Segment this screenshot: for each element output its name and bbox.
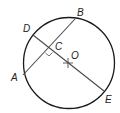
label-E: E [105, 95, 112, 105]
label-B: B [77, 8, 84, 18]
label-O: O [71, 51, 79, 61]
circle-diagram [0, 0, 120, 113]
label-D: D [23, 24, 30, 34]
label-A: A [11, 73, 18, 83]
label-C: C [55, 42, 62, 52]
right-angle-marker [46, 53, 53, 57]
